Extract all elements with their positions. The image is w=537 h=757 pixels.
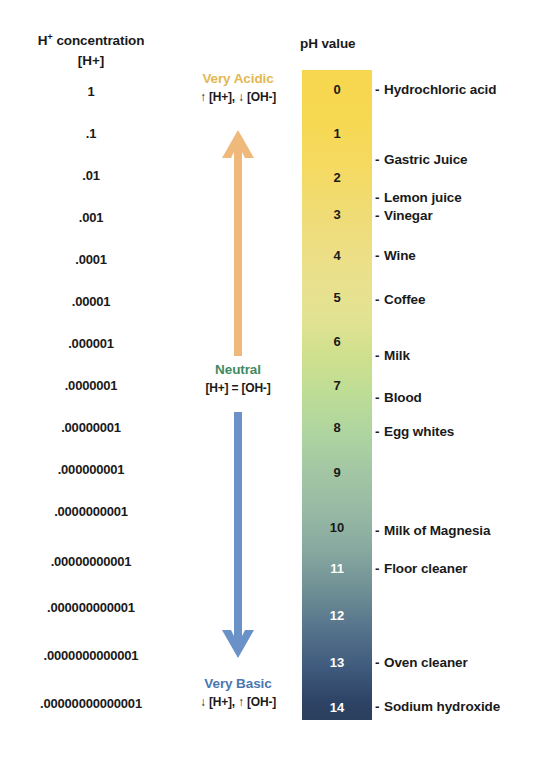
ph-number: 7 [302, 378, 372, 393]
ph-substance-name: Milk [384, 348, 410, 363]
tick-dash-icon: - [375, 561, 384, 576]
hplus-value: 1 [0, 84, 182, 99]
hplus-value: .1 [0, 126, 182, 141]
hplus-heading-prefix: H [38, 33, 48, 48]
tick-dash-icon: - [375, 655, 384, 670]
hplus-value: .000000000001 [0, 600, 182, 615]
ph-substance-name: Floor cleaner [384, 561, 467, 576]
hplus-value: .00000001 [0, 420, 182, 435]
tick-dash-icon: - [375, 348, 384, 363]
ph-substance-label: -Lemon juice [375, 190, 462, 205]
very-acidic-ion-note: ↑ [H+], ↓ [OH-] [176, 90, 300, 104]
ph-substance-label: -Milk [375, 348, 410, 363]
tick-dash-icon: - [375, 152, 384, 167]
hplus-value: .01 [0, 168, 182, 183]
ph-substance-label: -Coffee [375, 292, 425, 307]
ph-number: 12 [302, 608, 372, 623]
ph-substance-name: Blood [384, 390, 422, 405]
ph-substance-label: -Vinegar [375, 208, 433, 223]
very-acidic-label: Very Acidic [176, 71, 300, 86]
tick-dash-icon: - [375, 292, 384, 307]
ph-number: 6 [302, 334, 372, 349]
hplus-value: .000001 [0, 336, 182, 351]
ph-substance-label: -Wine [375, 248, 416, 263]
very-basic-label: Very Basic [176, 676, 300, 691]
ph-substance-name: Wine [384, 248, 416, 263]
neutral-label: Neutral [176, 362, 300, 377]
ph-substance-label: -Egg whites [375, 424, 454, 439]
tick-dash-icon: - [375, 699, 384, 714]
hplus-bracket-superscript: + [92, 53, 100, 68]
ph-substance-label: -Milk of Magnesia [375, 523, 490, 538]
ph-number: 5 [302, 290, 372, 305]
ph-substance-name: Milk of Magnesia [384, 523, 490, 538]
acidity-direction-column: Very Acidic ↑ [H+], ↓ [OH-] Neutral [H+]… [176, 0, 300, 757]
ph-number: 8 [302, 420, 372, 435]
ph-substance-label: -Sodium hydroxide [375, 699, 500, 714]
hplus-bracket-heading: [H+] [0, 51, 182, 71]
ph-substance-label: -Blood [375, 390, 422, 405]
hplus-concentration-column: H+ concentration [H+] 1 .1 .01 .001 .000… [0, 0, 182, 757]
ph-number: 9 [302, 465, 372, 480]
neutral-ion-note: [H+] = [OH-] [176, 381, 300, 395]
ph-substance-name: Vinegar [384, 208, 433, 223]
arrow-down-icon [176, 412, 300, 660]
tick-dash-icon: - [375, 523, 384, 538]
ph-substance-name: Hydrochloric acid [384, 82, 496, 97]
tick-dash-icon: - [375, 390, 384, 405]
ph-substance-name: Sodium hydroxide [384, 699, 500, 714]
tick-dash-icon: - [375, 208, 384, 223]
ph-number: 14 [302, 700, 372, 715]
ph-substance-label: -Floor cleaner [375, 561, 467, 576]
ph-value-heading: pH value [300, 36, 355, 51]
ph-number: 0 [302, 82, 372, 97]
ph-substance-name: Coffee [384, 292, 425, 307]
hplus-value: .0001 [0, 252, 182, 267]
ph-number: 4 [302, 248, 372, 263]
tick-dash-icon: - [375, 82, 384, 97]
tick-dash-icon: - [375, 248, 384, 263]
arrow-up-icon [176, 128, 300, 356]
tick-dash-icon: - [375, 190, 384, 205]
ph-substance-label: -Oven cleaner [375, 655, 468, 670]
ph-number: 2 [302, 170, 372, 185]
hplus-heading-suffix: concentration [53, 33, 145, 48]
hplus-value: .00000000001 [0, 554, 182, 569]
hplus-concentration-heading: H+ concentration [0, 31, 182, 51]
ph-number: 3 [302, 207, 372, 222]
hplus-value: .0000001 [0, 378, 182, 393]
very-basic-ion-note: ↓ [H+], ↑ [OH-] [176, 695, 300, 709]
hplus-value: .0000000000001 [0, 648, 182, 663]
ph-number: 11 [302, 561, 372, 576]
ph-number: 10 [302, 520, 372, 535]
ph-substance-label: -Hydrochloric acid [375, 82, 496, 97]
ph-substance-name: Oven cleaner [384, 655, 468, 670]
hplus-value: .000000001 [0, 462, 182, 477]
hplus-value: .001 [0, 210, 182, 225]
ph-substance-name: Egg whites [384, 424, 454, 439]
hplus-value: .00000000000001 [0, 696, 182, 711]
tick-dash-icon: - [375, 424, 384, 439]
ph-scale-column: pH value 0 1 2 3 4 5 6 7 8 9 10 11 12 13… [291, 0, 537, 757]
ph-substance-label: -Gastric Juice [375, 152, 468, 167]
hplus-value: .00001 [0, 294, 182, 309]
hplus-bracket-suffix: ] [100, 53, 105, 68]
ph-substance-name: Lemon juice [384, 190, 462, 205]
ph-number: 13 [302, 655, 372, 670]
ph-number: 1 [302, 126, 372, 141]
ph-substance-name: Gastric Juice [384, 152, 468, 167]
hplus-bracket-prefix: [H [78, 53, 92, 68]
hplus-value: .0000000001 [0, 504, 182, 519]
